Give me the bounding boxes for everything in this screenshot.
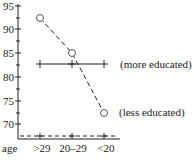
y-tick-95: 95	[3, 0, 15, 12]
x-axis-title: age	[2, 142, 17, 154]
y-tick-75: 75	[3, 95, 15, 107]
less-educated-label: (less educated)	[119, 106, 185, 119]
more-educated-label: (more educated)	[120, 58, 192, 71]
y-tick-85: 85	[3, 47, 15, 59]
x-tick-under20: <20	[97, 142, 115, 154]
x-tick-over29: >29	[33, 142, 51, 154]
y-tick-80: 80	[3, 71, 15, 83]
line-chart: 95 90 85 80 75 70 (more educated) (less …	[0, 0, 194, 162]
y-tick-labels: 95 90 85 80 75 70	[3, 0, 15, 130]
y-tick-90: 90	[3, 23, 15, 35]
x-tick-20-29: 20–29	[59, 142, 87, 154]
y-tick-70: 70	[3, 118, 15, 130]
baseline-markers	[37, 133, 107, 139]
